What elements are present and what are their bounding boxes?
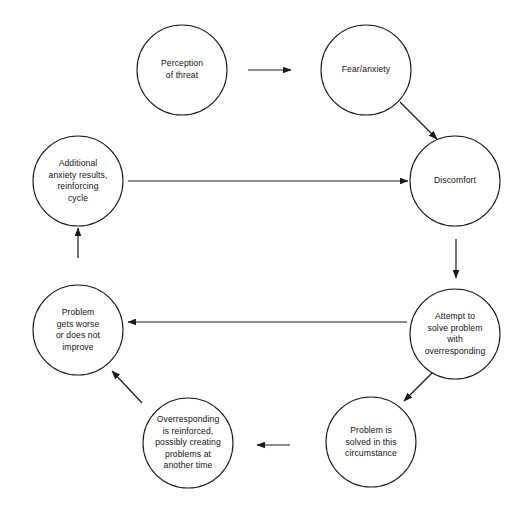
node-circle-discomfort[interactable] <box>410 136 500 226</box>
node-circle-overresponding-is-reinforced[interactable] <box>143 398 233 488</box>
arrow-layer <box>78 70 456 445</box>
arrow-fear-to-discomfort <box>400 102 437 139</box>
node-circle-attempt-to-solve-problem[interactable] <box>410 289 500 379</box>
node-circle-perception-of-threat[interactable] <box>137 25 227 115</box>
arrow-attempt-to-problem-solved <box>404 373 432 401</box>
node-circle-problem-is-solved[interactable] <box>326 397 416 487</box>
diagram-canvas <box>0 0 522 507</box>
node-circle-additional-anxiety-results[interactable] <box>33 136 123 226</box>
arrow-overresponding-to-problem-worse <box>112 371 142 403</box>
circle-layer <box>33 25 500 488</box>
cycle-diagram: Perception of threatFear/anxietyDiscomfo… <box>0 0 522 507</box>
node-circle-fear-anxiety[interactable] <box>321 25 411 115</box>
node-circle-problem-gets-worse[interactable] <box>33 285 123 375</box>
